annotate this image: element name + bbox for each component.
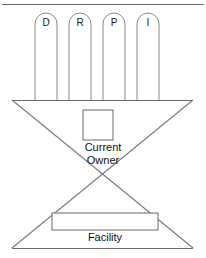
pillar-r-label: R (76, 17, 83, 28)
pillar-i-label: I (147, 17, 150, 28)
current-owner-box (83, 110, 113, 140)
facility-box (52, 213, 158, 230)
facility-label: Facility (88, 231, 123, 243)
hourglass-stakeholder-diagram: D R P I Current Owner Facility (0, 0, 206, 258)
diagram-canvas: D R P I Current Owner Facility (0, 0, 206, 258)
current-owner-label-line2: Owner (87, 154, 120, 166)
pillar-d-label: D (42, 17, 49, 28)
pillar-p-label: P (111, 17, 118, 28)
current-owner-label-line1: Current (85, 141, 122, 153)
